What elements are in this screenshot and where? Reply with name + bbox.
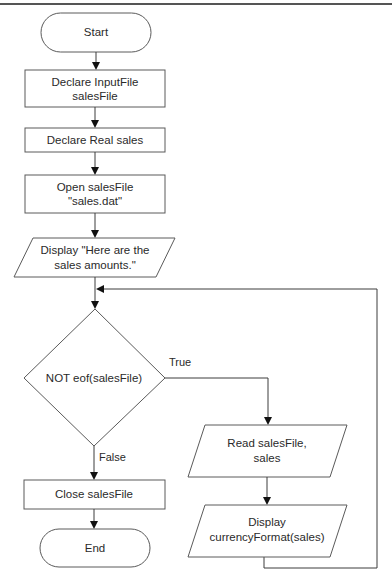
false-label: False bbox=[99, 451, 126, 463]
declare-file-line2: salesFile bbox=[72, 90, 117, 102]
true-branch-line bbox=[165, 378, 268, 418]
declare-file-process: Declare InputFile salesFile bbox=[25, 70, 165, 107]
arrow-down-icon bbox=[90, 521, 98, 529]
open-file-process: Open salesFile "sales.dat" bbox=[25, 175, 165, 213]
close-file-process: Close salesFile bbox=[24, 480, 165, 509]
declare-sales-label: Declare Real sales bbox=[47, 134, 144, 146]
close-file-label: Close salesFile bbox=[55, 488, 133, 500]
open-file-line2: "sales.dat" bbox=[68, 195, 122, 207]
read-file-io: Read salesFile, sales bbox=[188, 425, 347, 477]
arrow-down-icon bbox=[263, 497, 271, 505]
display-sales-line2: currencyFormat(sales) bbox=[209, 531, 324, 543]
start-label: Start bbox=[84, 26, 109, 38]
arrow-down-icon bbox=[91, 120, 99, 128]
start-terminal: Start bbox=[41, 13, 151, 52]
read-file-line1: Read salesFile, bbox=[227, 437, 306, 449]
arrow-down-icon bbox=[90, 472, 98, 480]
arrow-down-icon bbox=[91, 301, 99, 309]
read-file-line2: sales bbox=[254, 452, 281, 464]
display-sales-line1: Display bbox=[248, 516, 286, 528]
arrow-left-icon bbox=[96, 285, 104, 293]
arrow-down-icon bbox=[264, 417, 272, 425]
flowchart: Start Declare InputFile salesFile Declar… bbox=[0, 0, 392, 586]
decision-diamond: NOT eof(salesFile) bbox=[24, 309, 165, 446]
arrow-down-icon bbox=[92, 62, 100, 70]
arrow-down-icon bbox=[91, 167, 99, 175]
end-terminal: End bbox=[40, 529, 150, 567]
declare-file-line1: Declare InputFile bbox=[52, 76, 139, 88]
display-sales-io: Display currencyFormat(sales) bbox=[188, 505, 347, 557]
decision-label: NOT eof(salesFile) bbox=[46, 372, 142, 384]
display-header-line1: Display "Here are the bbox=[41, 244, 150, 256]
end-label: End bbox=[85, 542, 105, 554]
open-file-line1: Open salesFile bbox=[57, 181, 134, 193]
true-label: True bbox=[169, 356, 191, 368]
arrow-down-icon bbox=[91, 230, 99, 238]
declare-sales-process: Declare Real sales bbox=[25, 128, 165, 152]
display-header-line2: sales amounts." bbox=[54, 259, 135, 271]
display-header-io: Display "Here are the sales amounts." bbox=[14, 238, 175, 277]
